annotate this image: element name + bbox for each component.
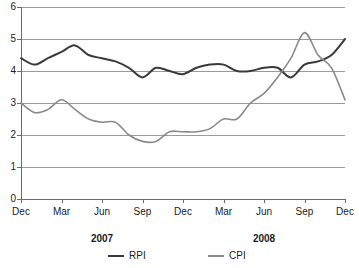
legend-label-rpi: RPI — [129, 249, 146, 263]
legend-label-cpi: CPI — [229, 249, 246, 263]
legend: RPI CPI — [0, 249, 353, 265]
series-line-cpi — [21, 33, 345, 143]
legend-swatch-rpi — [108, 255, 124, 257]
legend-swatch-cpi — [208, 255, 224, 257]
